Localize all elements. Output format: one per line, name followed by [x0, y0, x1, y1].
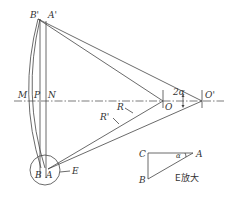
label-b: B — [34, 170, 42, 180]
leader-E — [60, 171, 70, 172]
label-e: E — [71, 166, 79, 176]
label-r: R — [116, 102, 124, 112]
label-two-alpha: 2α — [172, 87, 185, 97]
inset-label-b: B — [138, 175, 146, 185]
label-o: O — [165, 102, 173, 112]
label-a-prime: A' — [47, 10, 57, 20]
line-aprime-o — [38, 19, 163, 101]
angle-alpha-arc — [185, 153, 186, 157]
label-o-prime: O' — [205, 90, 215, 100]
label-m: M — [17, 90, 28, 100]
label-p: P — [33, 90, 41, 100]
label-a: A — [45, 170, 53, 180]
inset-label-alpha: α — [176, 152, 181, 160]
geometry-diagram: B' A' M P N O O' 2α R R' B A E C A B α E… — [0, 0, 225, 202]
inset-triangle: C A B α E放大 — [138, 149, 203, 185]
label-r-prime: R' — [99, 112, 109, 122]
arrow-down-icon — [182, 105, 185, 108]
label-b-prime: B' — [29, 10, 39, 20]
inset-label-c: C — [139, 149, 146, 159]
leader-R — [125, 108, 133, 113]
inset-label-a: A — [195, 149, 203, 159]
inset-caption: E放大 — [175, 172, 199, 183]
leader-R-prime — [113, 118, 119, 124]
label-n: N — [47, 90, 57, 100]
